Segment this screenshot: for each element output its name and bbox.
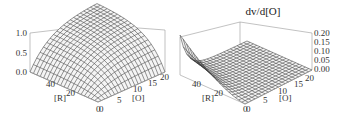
o-tick: 0 <box>246 104 251 114</box>
r-tick: 40 <box>46 79 56 89</box>
plot-dv-dO: dv/d[O] 0.20 0.15 0.10 0.05 0.00 40 20 0… <box>180 5 330 114</box>
o-tick: 20 <box>160 72 170 82</box>
o-tick: 15 <box>148 78 158 88</box>
r-axis-label: [R] <box>202 93 214 103</box>
r-axis-label: [R] <box>54 93 66 103</box>
o-tick: 5 <box>263 95 268 105</box>
o-axis-label: [O] <box>132 93 145 103</box>
o-tick: 20 <box>305 73 315 83</box>
surface-mesh <box>180 35 312 104</box>
o-tick: 15 <box>294 79 304 89</box>
o-tick: 0 <box>99 104 104 114</box>
figure: v 1.0 0.5 0.0 40 20 0 [R] 0 5 10 15 20 [… <box>0 0 346 121</box>
z-tick: 0.00 <box>314 64 330 74</box>
z-tick: 1.0 <box>16 28 28 38</box>
z-tick: 0.5 <box>16 48 28 58</box>
r-tick: 40 <box>192 79 202 89</box>
r-tick: 20 <box>214 88 224 98</box>
plot-title: dv/d[O] <box>246 5 281 17</box>
o-tick: 5 <box>117 95 122 105</box>
o-axis-label: [O] <box>279 93 292 103</box>
plot-v: v 1.0 0.5 0.0 40 20 0 [R] 0 5 10 15 20 [… <box>16 4 170 114</box>
r-tick: 20 <box>66 88 76 98</box>
z-tick: 0.0 <box>16 67 28 77</box>
